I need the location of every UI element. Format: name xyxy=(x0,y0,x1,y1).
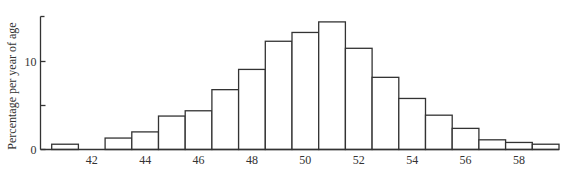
histogram-bar xyxy=(105,138,132,149)
y-axis-ticks: 010 xyxy=(25,55,46,157)
histogram-bar xyxy=(265,41,292,149)
x-axis-ticks: 424446485052545658 xyxy=(86,153,525,167)
x-tick-label: 46 xyxy=(193,153,205,167)
histogram-bar xyxy=(479,140,506,150)
y-axis-title: Percentage per year of age xyxy=(5,22,19,149)
y-tick-label: 10 xyxy=(25,55,37,69)
histogram-bar xyxy=(212,90,239,150)
x-tick-label: 42 xyxy=(86,153,98,167)
x-tick-label: 56 xyxy=(460,153,472,167)
histogram-bar xyxy=(345,48,372,149)
histogram-bar xyxy=(532,144,559,149)
histogram-bar xyxy=(506,142,533,149)
x-tick-label: 58 xyxy=(513,153,525,167)
x-tick-label: 44 xyxy=(139,153,151,167)
histogram-bar xyxy=(185,111,212,150)
histogram-bar xyxy=(426,115,453,149)
histogram-bar xyxy=(452,128,479,149)
histogram-bar xyxy=(292,32,319,149)
histogram-bar xyxy=(159,116,186,149)
x-tick-label: 52 xyxy=(353,153,365,167)
histogram-bar xyxy=(319,22,346,150)
histogram-bars xyxy=(52,22,559,150)
histogram-bar xyxy=(52,144,79,149)
x-tick-label: 50 xyxy=(299,153,311,167)
y-tick-label: 0 xyxy=(31,143,37,157)
histogram-bar xyxy=(132,132,159,150)
histogram-bar xyxy=(239,69,266,149)
x-tick-label: 48 xyxy=(246,153,258,167)
histogram-bar xyxy=(372,77,399,149)
histogram-chart: 424446485052545658 010 Percentage per ye… xyxy=(0,0,572,181)
histogram-bar xyxy=(399,98,426,149)
x-tick-label: 54 xyxy=(406,153,418,167)
